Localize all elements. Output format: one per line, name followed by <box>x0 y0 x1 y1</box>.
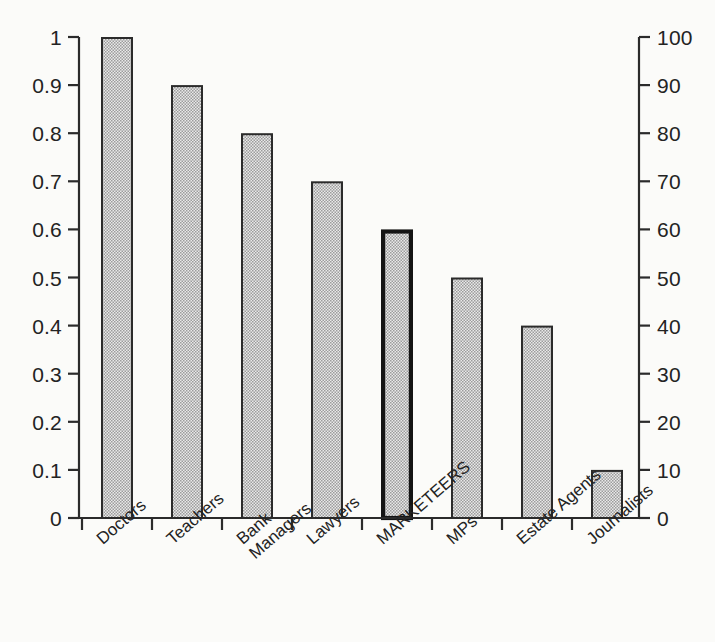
bar-marketeers <box>383 232 411 519</box>
y-tick-right-80: 80 <box>657 123 681 144</box>
y-tick-right-60: 60 <box>657 219 681 240</box>
y-tick-left-0.2: 0.2 <box>32 411 62 432</box>
bar-teachers <box>172 86 202 518</box>
bar-lawyers <box>312 182 342 518</box>
y-tick-right-70: 70 <box>657 171 681 192</box>
y-tick-left-0.7: 0.7 <box>32 171 62 192</box>
y-tick-left-0.3: 0.3 <box>32 363 62 384</box>
y-tick-left-0: 0 <box>50 508 62 529</box>
y-tick-right-20: 20 <box>657 411 681 432</box>
y-tick-right-30: 30 <box>657 363 681 384</box>
y-tick-right-90: 90 <box>657 75 681 96</box>
y-tick-left-0.1: 0.1 <box>32 459 62 480</box>
bar-chart: 10.90.80.70.60.50.40.30.20.10 1009080706… <box>0 0 715 642</box>
y-tick-left-0.4: 0.4 <box>32 315 62 336</box>
y-tick-left-0.6: 0.6 <box>32 219 62 240</box>
y-tick-right-100: 100 <box>657 27 693 48</box>
y-tick-left-0.9: 0.9 <box>32 75 62 96</box>
bar-bank-managers <box>242 134 272 518</box>
chart-page: 10.90.80.70.60.50.40.30.20.10 1009080706… <box>0 0 715 642</box>
y-tick-right-0: 0 <box>657 508 669 529</box>
bar-estate-agents <box>522 327 552 518</box>
bar-doctors <box>102 38 132 518</box>
y-tick-left-0.8: 0.8 <box>32 123 62 144</box>
y-tick-right-50: 50 <box>657 267 681 288</box>
y-tick-right-10: 10 <box>657 459 681 480</box>
y-tick-left-1: 1 <box>50 27 62 48</box>
y-tick-left-0.5: 0.5 <box>32 267 62 288</box>
y-tick-right-40: 40 <box>657 315 681 336</box>
